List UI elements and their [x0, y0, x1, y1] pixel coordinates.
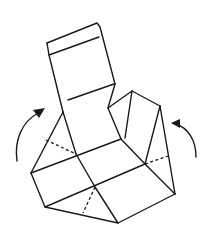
diagram-canvas: [0, 0, 211, 225]
fold-diagram: [0, 0, 211, 225]
base-grid: [31, 139, 175, 223]
right-fold-arrow: [171, 119, 196, 157]
right-triangle-flap: [108, 84, 175, 194]
tall-back-panel: [47, 23, 115, 112]
